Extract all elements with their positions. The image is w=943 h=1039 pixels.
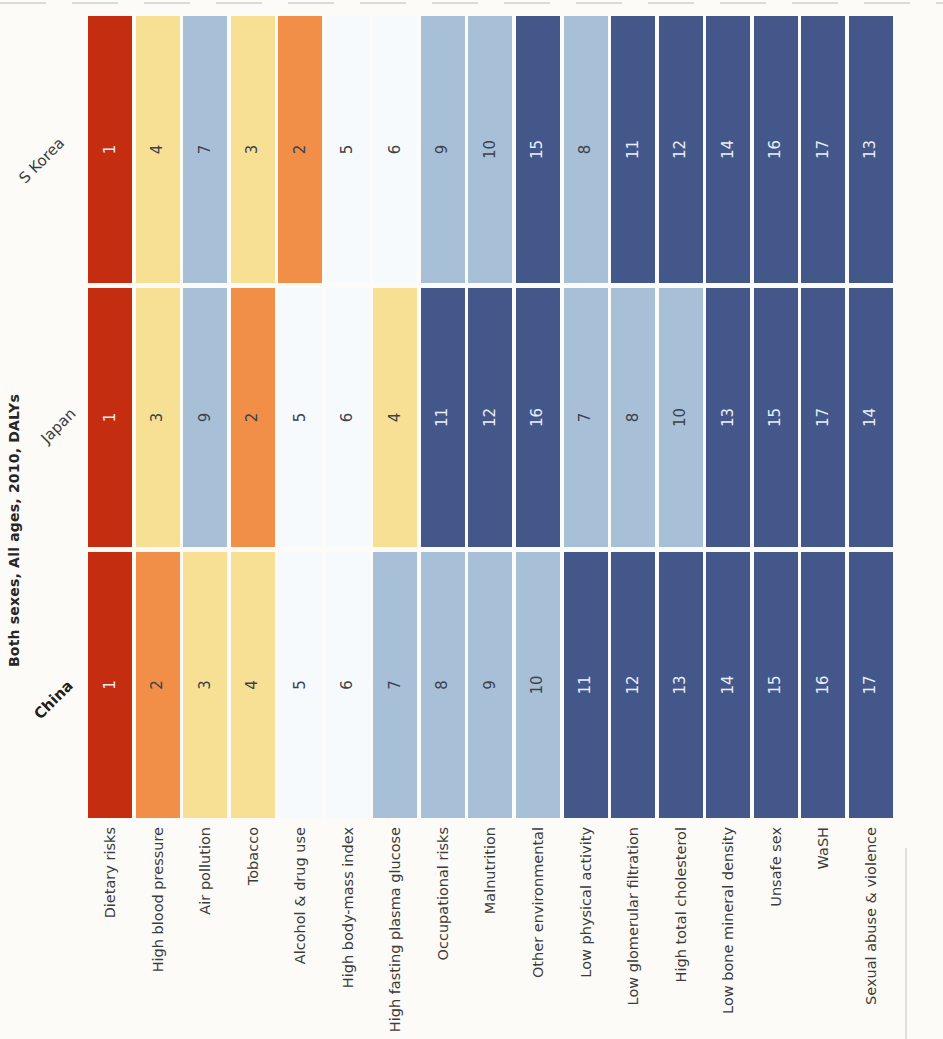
heatmap-cell: 13 — [706, 288, 750, 547]
cell-rank: 14 — [863, 408, 878, 427]
cell-rank: 14 — [721, 140, 736, 159]
row-label: Other environmental — [529, 827, 547, 1039]
cell-rank: 8 — [435, 680, 450, 690]
row-label: Sexual abuse & violence — [862, 827, 880, 1039]
row-label: Dietary risks — [101, 827, 119, 1039]
photo-edge-line-right — [905, 848, 907, 1039]
heatmap-cell: 12 — [659, 16, 703, 283]
heatmap-cell: 17 — [801, 288, 845, 547]
heatmap-cell: 17 — [849, 552, 893, 818]
cell-rank: 4 — [388, 413, 403, 423]
cell-rank: 3 — [245, 145, 260, 155]
heatmap-cell: 10 — [659, 288, 703, 547]
heatmap-cell: 15 — [516, 16, 560, 283]
row-label: Tobacco — [244, 827, 262, 1039]
cell-rank: 15 — [530, 140, 545, 159]
cell-rank: 9 — [435, 145, 450, 155]
cell-rank: 10 — [673, 408, 688, 427]
heatmap-cell: 4 — [373, 288, 417, 547]
cell-rank: 2 — [245, 413, 260, 423]
cell-rank: 17 — [816, 140, 831, 159]
cell-rank: 5 — [293, 413, 308, 423]
cell-rank: 10 — [483, 140, 498, 159]
heatmap-cell: 15 — [754, 552, 798, 818]
cell-rank: 16 — [530, 408, 545, 427]
heatmap-cell: 2 — [231, 288, 275, 547]
heatmap-cell: 8 — [564, 16, 608, 283]
cell-rank: 3 — [150, 413, 165, 423]
heatmap-cell: 17 — [801, 16, 845, 283]
photo-background: Both sexes, All ages, 2010, DALYs ChinaJ… — [0, 0, 943, 1039]
heatmap-cell: 5 — [326, 16, 370, 283]
cell-rank: 15 — [768, 675, 783, 694]
cell-rank: 17 — [816, 408, 831, 427]
cell-rank: 8 — [626, 413, 641, 423]
cell-rank: 14 — [721, 675, 736, 694]
heatmap-cell: 13 — [849, 16, 893, 283]
heatmap-cell: 10 — [468, 16, 512, 283]
cell-rank: 13 — [673, 675, 688, 694]
cell-rank: 7 — [388, 680, 403, 690]
heatmap-cell: 16 — [754, 16, 798, 283]
heatmap-cell: 6 — [326, 552, 370, 818]
heatmap-cell: 5 — [278, 288, 322, 547]
heatmap-cell: 3 — [136, 288, 180, 547]
heatmap: Both sexes, All ages, 2010, DALYs ChinaJ… — [0, 0, 943, 1039]
row-label: Unsafe sex — [767, 827, 785, 1039]
heatmap-cell: 13 — [659, 552, 703, 818]
heatmap-cell: 7 — [373, 552, 417, 818]
row-label: WaSH — [814, 827, 832, 1039]
heatmap-cell: 14 — [706, 16, 750, 283]
cell-rank: 12 — [673, 140, 688, 159]
heatmap-cell: 8 — [421, 552, 465, 818]
cell-rank: 4 — [150, 145, 165, 155]
heatmap-cell: 16 — [801, 552, 845, 818]
row-label: Low physical activity — [577, 827, 595, 1039]
row-label: High total cholesterol — [672, 827, 690, 1039]
heatmap-cell: 1 — [88, 16, 132, 283]
cell-rank: 2 — [150, 680, 165, 690]
cell-rank: 11 — [435, 408, 450, 427]
heatmap-cell: 12 — [611, 552, 655, 818]
cell-rank: 4 — [245, 680, 260, 690]
cell-rank: 6 — [340, 680, 355, 690]
heatmap-cell: 4 — [231, 552, 275, 818]
cell-rank: 10 — [530, 675, 545, 694]
row-label: Occupational risks — [434, 827, 452, 1039]
cell-rank: 13 — [863, 140, 878, 159]
cell-rank: 16 — [816, 675, 831, 694]
heatmap-cell: 6 — [373, 16, 417, 283]
cell-rank: 1 — [103, 145, 118, 155]
column-header-china: China — [30, 677, 76, 723]
heatmap-cell: 4 — [136, 16, 180, 283]
column-header-japan: Japan — [37, 405, 79, 447]
cell-rank: 1 — [103, 413, 118, 423]
row-label: Low glomerular filtration — [624, 827, 642, 1039]
heatmap-cell: 11 — [421, 288, 465, 547]
row-label: Alcohol & drug use — [291, 827, 309, 1039]
cell-rank: 17 — [863, 675, 878, 694]
heatmap-cell: 11 — [611, 16, 655, 283]
cell-rank: 5 — [340, 145, 355, 155]
photo-edge-line-top — [0, 2, 943, 4]
cell-rank: 7 — [578, 413, 593, 423]
heatmap-cell: 3 — [231, 16, 275, 283]
heatmap-cell: 8 — [611, 288, 655, 547]
cell-rank: 6 — [340, 413, 355, 423]
cell-rank: 15 — [768, 408, 783, 427]
row-label: High blood pressure — [149, 827, 167, 1039]
heatmap-cell: 14 — [849, 288, 893, 547]
heatmap-cell: 9 — [183, 288, 227, 547]
heatmap-cell: 11 — [564, 552, 608, 818]
cell-rank: 12 — [626, 675, 641, 694]
cell-rank: 13 — [721, 408, 736, 427]
cell-rank: 16 — [768, 140, 783, 159]
cell-rank: 11 — [626, 140, 641, 159]
cell-rank: 12 — [483, 408, 498, 427]
heatmap-cell: 10 — [516, 552, 560, 818]
cell-rank: 2 — [293, 145, 308, 155]
cell-rank: 3 — [198, 680, 213, 690]
cell-rank: 11 — [578, 675, 593, 694]
row-label: Low bone mineral density — [719, 827, 737, 1039]
row-label: High fasting plasma glucose — [386, 827, 404, 1039]
